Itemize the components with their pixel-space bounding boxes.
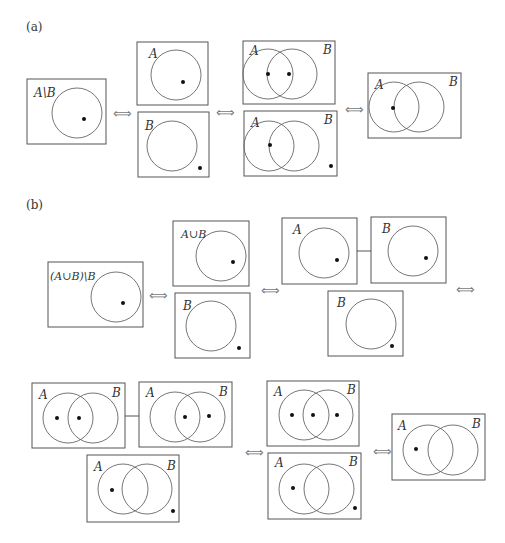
diagram-ab-result: A B bbox=[368, 73, 461, 138]
set-label-a: A bbox=[93, 460, 103, 474]
diagram-ab-left-outside-2: A B bbox=[268, 453, 361, 519]
set-label: A∪B bbox=[180, 228, 206, 241]
diagram-b-outside: B bbox=[328, 291, 403, 356]
set-label-b: B bbox=[346, 383, 356, 397]
set-label-a: A bbox=[374, 78, 384, 92]
set-label-b: B bbox=[322, 43, 332, 57]
set-label: B bbox=[381, 222, 391, 236]
set-label-b: B bbox=[323, 113, 333, 127]
diagram-b: B bbox=[175, 293, 250, 358]
set-label-a: A bbox=[273, 385, 283, 399]
set-label-b: B bbox=[218, 385, 228, 399]
equivalence-arrow: ⟺ bbox=[373, 444, 392, 459]
set-label-a: A bbox=[250, 116, 260, 130]
set-label-a: A bbox=[397, 419, 407, 433]
equivalence-arrow: ⟺ bbox=[345, 102, 364, 117]
set-label: (A∪B)\B bbox=[50, 270, 96, 283]
equivalence-arrow: ⟺ bbox=[456, 282, 475, 297]
diagram-ab-left-mid: A B bbox=[32, 383, 125, 448]
set-label-b: B bbox=[166, 459, 176, 473]
set-label: B bbox=[336, 296, 346, 310]
diagram-ab-two-points: A B bbox=[243, 41, 335, 104]
equivalence-arrow: ⟺ bbox=[113, 106, 132, 121]
set-label-a: A bbox=[274, 456, 284, 470]
equivalence-arrow: ⟺ bbox=[149, 288, 168, 303]
set-label-b: B bbox=[448, 75, 458, 89]
set-label: A bbox=[148, 47, 158, 61]
diagram-b: B bbox=[138, 112, 209, 177]
set-label-b: B bbox=[111, 386, 121, 400]
set-label: B bbox=[182, 299, 192, 313]
diagram-ab-three-points: A B bbox=[267, 381, 359, 446]
diagram-aub-minus-b: (A∪B)\B bbox=[48, 262, 143, 327]
set-label: A bbox=[292, 223, 302, 237]
venn-diagram-figure: (a) A\B ⟺ A B ⟺ A B A B bbox=[0, 0, 505, 543]
diagram-ab-point-and-outside: A B bbox=[244, 111, 337, 176]
panel-a-label: (a) bbox=[26, 20, 43, 34]
panel-b-label: (b) bbox=[26, 198, 43, 212]
set-label: B bbox=[144, 119, 154, 133]
diagram-ab-left-outside: A B bbox=[87, 455, 179, 522]
equivalence-arrow: ⟺ bbox=[216, 105, 235, 120]
diagram-ab-result: A B bbox=[392, 414, 485, 480]
diagram-a: A bbox=[137, 42, 208, 105]
set-label-a: A bbox=[38, 388, 48, 402]
diagram-aub: A∪B bbox=[173, 221, 249, 286]
set-label-a: A bbox=[249, 44, 259, 58]
set-label-a: A bbox=[145, 386, 155, 400]
diagram-a-pair: A bbox=[282, 218, 357, 284]
equivalence-arrow: ⟺ bbox=[245, 445, 264, 460]
diagram-ab-mid-right: A B bbox=[139, 382, 232, 447]
set-label: A\B bbox=[33, 86, 56, 100]
set-label-b: B bbox=[348, 455, 358, 469]
equivalence-arrow: ⟺ bbox=[261, 283, 280, 298]
diagram-a-minus-b: A\B bbox=[27, 79, 106, 144]
set-label-b: B bbox=[471, 417, 481, 431]
diagram-b-pair: B bbox=[371, 217, 446, 283]
